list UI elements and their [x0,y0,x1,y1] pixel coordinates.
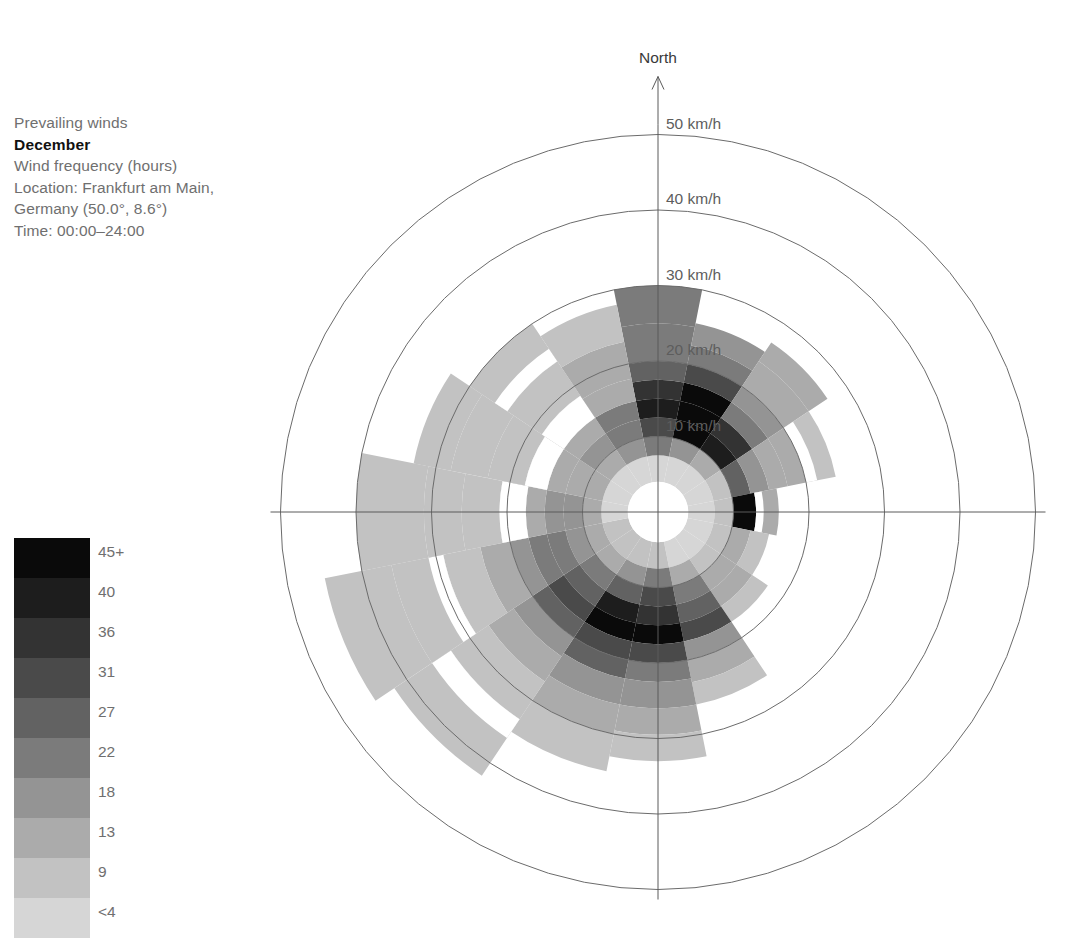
radial-tick-label: 50 km/h [666,115,721,132]
wind-rose-sectors [325,286,836,776]
radial-tick-label: 10 km/h [666,417,721,434]
radial-tick-label: 40 km/h [666,190,721,207]
radial-tick-label: 20 km/h [666,341,721,358]
radial-tick-label: 30 km/h [666,266,721,283]
north-label: North [639,49,677,66]
